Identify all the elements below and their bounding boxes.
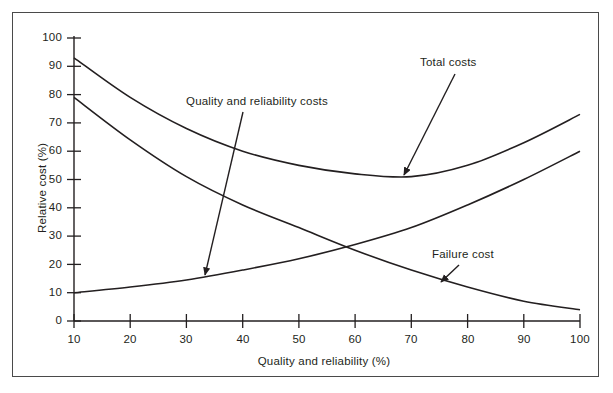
y-tick-label-70: 70 bbox=[30, 116, 62, 128]
x-tick-label-90: 90 bbox=[504, 333, 544, 345]
x-tick-label-40: 40 bbox=[223, 333, 263, 345]
x-tick-label-100: 100 bbox=[560, 333, 600, 345]
y-tick-label-80: 80 bbox=[30, 88, 62, 100]
x-tick-label-70: 70 bbox=[391, 333, 431, 345]
y-axis-label: Relative cost (%) bbox=[36, 143, 48, 233]
x-tick-label-20: 20 bbox=[110, 333, 150, 345]
arrow-total-costs bbox=[404, 74, 455, 175]
annotation-failure-cost: Failure cost bbox=[432, 248, 494, 260]
y-tick-label-100: 100 bbox=[30, 31, 62, 43]
chart-figure: 100 90 80 70 60 50 40 30 20 10 0 10 20 3… bbox=[0, 0, 613, 393]
x-tick-label-10: 10 bbox=[54, 333, 94, 345]
y-tick-label-0: 0 bbox=[30, 314, 62, 326]
annotation-quality-reliability-costs: Quality and reliability costs bbox=[186, 95, 328, 107]
x-tick-label-50: 50 bbox=[279, 333, 319, 345]
x-tick-label-30: 30 bbox=[166, 333, 206, 345]
y-tick-label-20: 20 bbox=[30, 258, 62, 270]
arrow-failure-cost bbox=[441, 265, 459, 282]
y-tick-label-90: 90 bbox=[30, 59, 62, 71]
x-axis-label: Quality and reliability (%) bbox=[234, 355, 414, 367]
x-tick-label-60: 60 bbox=[335, 333, 375, 345]
axes bbox=[74, 36, 580, 321]
curve-total-costs bbox=[74, 58, 580, 177]
arrow-quality-reliability-costs bbox=[205, 112, 243, 275]
curve-quality-reliability-costs bbox=[74, 151, 580, 293]
y-tick-label-10: 10 bbox=[30, 286, 62, 298]
curve-failure-cost bbox=[74, 97, 580, 309]
annotation-total-costs: Total costs bbox=[420, 56, 477, 68]
x-tick-label-80: 80 bbox=[448, 333, 488, 345]
